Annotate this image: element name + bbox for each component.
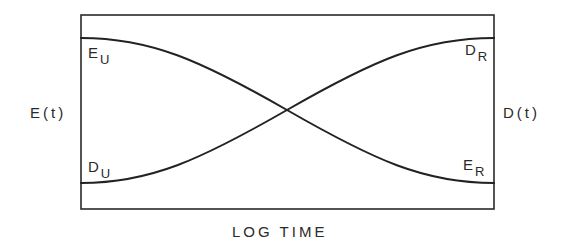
label-e-relaxed-subscript: R (475, 164, 485, 179)
y-right-axis-label: D(t) (503, 104, 540, 121)
label-d-relaxed: DR (465, 42, 488, 57)
label-d-relaxed-main: D (465, 41, 477, 58)
label-d-unrelaxed-main: D (88, 158, 100, 175)
label-d-unrelaxed: DU (88, 159, 111, 174)
label-d-unrelaxed-subscript: U (101, 166, 111, 181)
label-e-unrelaxed: EU (88, 45, 110, 60)
label-d-relaxed-subscript: R (478, 49, 488, 64)
relaxation-diagram: EU DU DR ER E(t) D(t) LOG TIME (0, 0, 573, 247)
label-e-unrelaxed-subscript: U (100, 52, 110, 67)
y-left-axis-label: E(t) (30, 104, 66, 121)
x-axis-label: LOG TIME (232, 223, 327, 240)
diagram-canvas (0, 0, 573, 247)
d-of-t-curve (81, 38, 494, 183)
label-e-relaxed-main: E (463, 156, 474, 173)
label-e-unrelaxed-main: E (88, 44, 99, 61)
label-e-relaxed: ER (463, 157, 485, 172)
